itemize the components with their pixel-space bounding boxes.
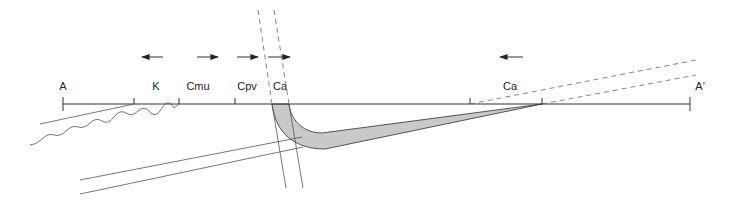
section-labels: A K Cmu Cpv Ca Ca A′ — [59, 80, 704, 92]
label-a-prime: A′ — [695, 80, 704, 92]
label-ca-right: Ca — [503, 80, 518, 92]
long-line-upper — [80, 137, 302, 180]
label-cmu: Cmu — [186, 80, 209, 92]
straight-line-left — [40, 104, 134, 124]
cross-section-diagram: A K Cmu Cpv Ca Ca A′ — [0, 0, 730, 208]
wavy-line-left — [30, 103, 179, 146]
dashed-extension-lower — [542, 75, 696, 104]
label-k: K — [152, 80, 160, 92]
label-cpv: Cpv — [237, 80, 257, 92]
steep-line-right — [289, 104, 303, 188]
label-a: A — [59, 80, 67, 92]
long-line-lower — [80, 147, 303, 194]
baseline-axis — [63, 97, 690, 111]
shaded-slab — [272, 104, 542, 149]
